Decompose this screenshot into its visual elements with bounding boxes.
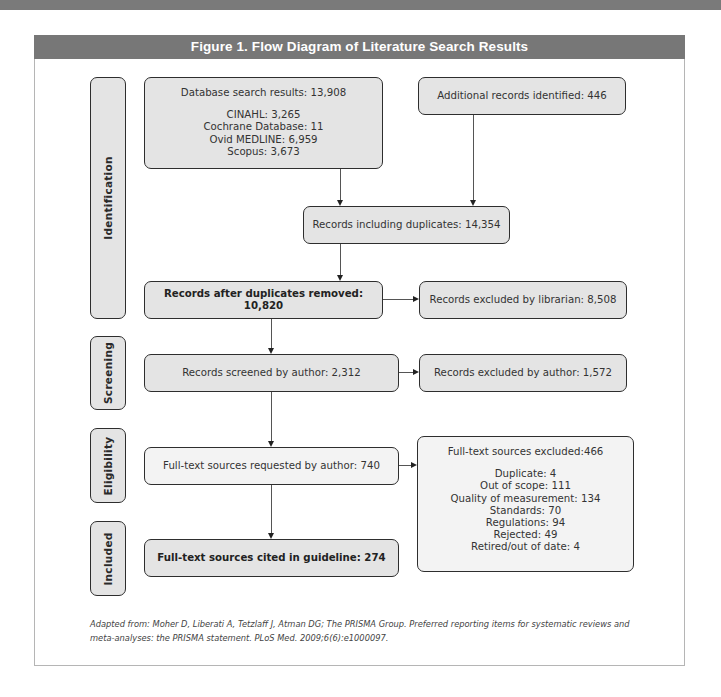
excluded-reason: Standards: 70 (490, 505, 561, 517)
arrow-head-icon (470, 200, 476, 206)
stage-screening: Screening (90, 336, 126, 410)
stage-eligibility-label: Eligibility (102, 436, 114, 495)
records-after-duplicates-label: Records after duplicates removed: 10,820 (145, 288, 382, 312)
excluded-reason: Retired/out of date: 4 (471, 541, 580, 553)
footnote: Adapted from: Moher D, Liberati A, Tetzl… (90, 618, 670, 645)
connector-line (271, 319, 272, 348)
records-including-duplicates-box: Records including duplicates: 14,354 (303, 206, 510, 244)
excluded-by-librarian-label: Records excluded by librarian: 8,508 (430, 294, 617, 306)
excluded-by-author-label: Records excluded by author: 1,572 (434, 367, 612, 379)
arrow-head-icon (268, 441, 274, 447)
screened-by-author-box: Records screened by author: 2,312 (144, 354, 399, 392)
database-search-box: Database search results: 13,908 CINAHL: … (144, 77, 383, 169)
fulltext-requested-label: Full-text sources requested by author: 7… (163, 460, 380, 472)
connector-line (399, 465, 411, 466)
fulltext-cited-label: Full-text sources cited in guideline: 27… (157, 552, 385, 564)
excluded-by-author-box: Records excluded by author: 1,572 (419, 354, 627, 392)
additional-records-label: Additional records identified: 446 (437, 90, 607, 102)
figure-title: Figure 1. Flow Diagram of Literature Sea… (34, 35, 685, 59)
excluded-reason: Out of scope: 111 (480, 480, 571, 492)
connector-line (340, 169, 341, 200)
excluded-reason: Rejected: 49 (494, 529, 558, 541)
stage-included-label: Included (102, 532, 114, 585)
arrow-head-icon (413, 296, 419, 302)
connector-line (473, 115, 474, 200)
excluded-by-librarian-box: Records excluded by librarian: 8,508 (419, 281, 627, 319)
stage-identification-label: Identification (102, 156, 114, 240)
connector-line (271, 392, 272, 441)
footnote-line: Adapted from: Moher D, Liberati A, Tetzl… (90, 618, 670, 632)
excluded-reason: Quality of measurement: 134 (451, 493, 601, 505)
connector-line (271, 485, 272, 533)
database-item: Scopus: 3,673 (227, 146, 299, 158)
connector-line (383, 299, 413, 300)
stage-eligibility: Eligibility (90, 428, 126, 503)
arrow-head-icon (337, 200, 343, 206)
connector-line (340, 244, 341, 275)
footnote-line: meta-analyses: the PRISMA statement. PLo… (90, 632, 670, 646)
stage-included: Included (90, 521, 126, 596)
top-bar (0, 0, 721, 10)
stage-screening-label: Screening (102, 342, 114, 404)
fulltext-excluded-box: Full-text sources excluded:466 Duplicate… (417, 436, 634, 572)
stage-identification: Identification (90, 77, 126, 319)
records-after-duplicates-box: Records after duplicates removed: 10,820 (144, 281, 383, 319)
database-item: Cochrane Database: 11 (203, 121, 323, 133)
arrow-head-icon (411, 462, 417, 468)
fulltext-requested-box: Full-text sources requested by author: 7… (144, 447, 399, 485)
records-including-duplicates-label: Records including duplicates: 14,354 (312, 219, 500, 231)
arrow-head-icon (268, 533, 274, 539)
screened-by-author-label: Records screened by author: 2,312 (182, 367, 361, 379)
additional-records-box: Additional records identified: 446 (418, 77, 626, 115)
excluded-reason: Regulations: 94 (486, 517, 565, 529)
fulltext-cited-box: Full-text sources cited in guideline: 27… (144, 539, 399, 577)
database-item: Ovid MEDLINE: 6,959 (209, 134, 317, 146)
arrow-head-icon (337, 275, 343, 281)
database-item: CINAHL: 3,265 (227, 109, 301, 121)
excluded-reason: Duplicate: 4 (495, 468, 557, 480)
arrow-head-icon (268, 348, 274, 354)
fulltext-excluded-title: Full-text sources excluded:466 (448, 446, 604, 458)
arrow-head-icon (413, 369, 419, 375)
connector-line (399, 372, 413, 373)
database-search-title: Database search results: 13,908 (181, 87, 346, 99)
